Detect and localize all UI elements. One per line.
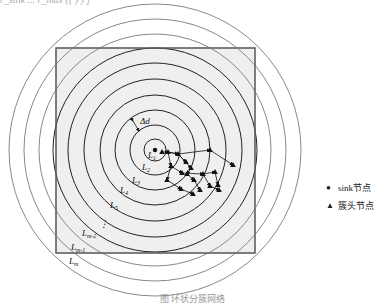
legend-label-cluster-head: 簇头节点 xyxy=(338,199,374,212)
ring-label: Lm xyxy=(68,256,79,267)
legend-item-sink: ● sink节点 xyxy=(326,181,371,194)
sink-dot-icon: ● xyxy=(326,183,338,192)
legend-label-sink: sink节点 xyxy=(338,181,371,194)
triangle-icon: ▲ xyxy=(326,201,338,210)
legend-item-cluster-head: ▲ 簇头节点 xyxy=(326,199,374,212)
sink-node xyxy=(153,148,157,152)
figure-caption: 图 环状分簇网络 xyxy=(0,292,385,305)
delta-d-label: Δd xyxy=(139,116,150,126)
